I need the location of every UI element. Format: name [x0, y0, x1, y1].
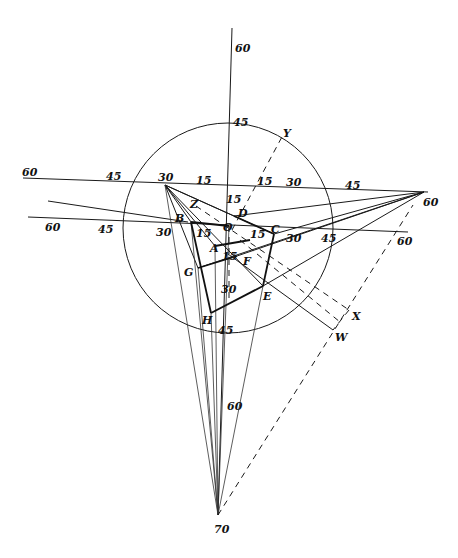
label-upper-left-60: 60: [22, 166, 38, 179]
bottom-vp-rays: [165, 185, 263, 515]
point-label-y: Y: [283, 127, 292, 140]
point-label-f: F: [242, 255, 252, 268]
point-label-o: O: [223, 221, 233, 234]
label-lower-left-60: 60: [45, 221, 61, 234]
point-label-w: W: [335, 331, 349, 344]
right-vp-rays: [198, 192, 424, 286]
label-vertical-70: 70: [214, 523, 230, 536]
label-inner-15-center: 15: [222, 250, 237, 263]
label-vertical-45-bottom: 45: [218, 324, 233, 337]
label-upper-right-30: 30: [286, 176, 302, 189]
label-lower-left-45: 45: [98, 223, 113, 236]
point-label-b: B: [174, 212, 184, 225]
vertical-axis: [218, 28, 232, 515]
label-vertical-45: 45: [233, 116, 248, 129]
upper-horizon-line: [23, 178, 428, 192]
point-label-z: Z: [189, 198, 199, 211]
label-upper-left-45: 45: [106, 170, 121, 183]
label-vertical-30: 30: [221, 283, 237, 296]
label-upper-right-60: 60: [423, 196, 439, 209]
point-label-c: C: [271, 223, 280, 236]
point-label-h: H: [201, 314, 213, 327]
point-label-e: E: [262, 290, 272, 303]
label-vertical-15: 15: [226, 193, 241, 206]
label-vertical-60: 60: [235, 42, 251, 55]
label-upper-left-30: 30: [158, 171, 174, 184]
label-upper-right-15: 15: [257, 175, 272, 188]
label-vertical-60-bottom: 60: [227, 400, 243, 413]
point-label-g: G: [184, 266, 193, 279]
label-upper-right-45: 45: [345, 179, 360, 192]
label-lower-right-45: 45: [321, 232, 336, 245]
label-upper-left-15: 15: [196, 174, 211, 187]
label-lower-right-60: 60: [397, 235, 413, 248]
point-label-a: A: [209, 242, 219, 255]
label-lower-right-30: 30: [286, 232, 302, 245]
point-label-d: D: [237, 207, 248, 220]
point-label-x: X: [351, 310, 361, 323]
label-inner-15-right: 15: [250, 228, 265, 241]
label-inner-15-left: 15: [196, 227, 211, 240]
perspective-diagram: 60 45 15 30 45 60 70 60 45 30 15 15 30 4…: [0, 0, 458, 558]
label-lower-left-30: 30: [156, 226, 172, 239]
